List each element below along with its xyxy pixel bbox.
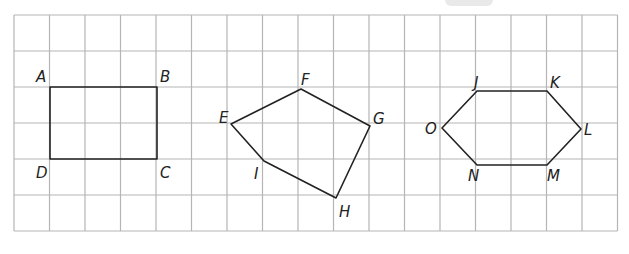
vertex-label-O: O — [425, 120, 437, 138]
vertex-label-D: D — [36, 164, 48, 182]
vertex-label-C: C — [160, 164, 171, 182]
vertex-label-B: B — [160, 68, 170, 86]
vertex-label-L: L — [584, 121, 592, 139]
vertex-label-M: M — [547, 167, 560, 185]
vertex-label-N: N — [468, 167, 479, 185]
vertex-label-H: H — [339, 203, 350, 221]
vertex-label-G: G — [373, 110, 385, 128]
vertex-label-J: J — [471, 74, 478, 92]
vertex-label-F: F — [301, 71, 310, 89]
vertex-label-I: I — [254, 165, 259, 183]
vertex-label-K: K — [550, 74, 561, 92]
grid-lines — [14, 15, 618, 231]
pentagon-EFGHI: EFGHI — [219, 71, 385, 221]
hexagon-JKLMNO: JKLMNO — [425, 74, 592, 185]
vertex-label-E: E — [219, 109, 229, 127]
rectangle-ABCD: ABCD — [35, 68, 171, 182]
vertex-label-A: A — [35, 68, 46, 86]
grid-diagram: ABCDEFGHIJKLMNO — [0, 0, 629, 254]
